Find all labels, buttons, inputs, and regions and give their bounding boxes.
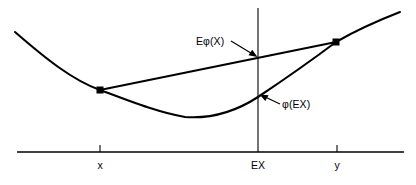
axis-tick-label-ex: EX [251, 160, 265, 171]
annotation-label-curve-value: φ(EX) [282, 99, 310, 110]
chord-endpoint-right-marker [333, 39, 340, 46]
curve-value-arrow [260, 95, 281, 105]
figure-canvas [0, 0, 416, 185]
chord-endpoint-left-marker [97, 87, 104, 94]
convex-curve [15, 12, 400, 117]
chord-line [100, 42, 336, 90]
jensen-inequality-figure: Eφ(X) φ(EX) x EX y [0, 0, 416, 185]
chord-value-arrow [231, 41, 258, 57]
axis-tick-label-x: x [97, 160, 102, 171]
annotation-label-chord-value: Eφ(X) [196, 36, 224, 47]
axis-tick-label-y: y [334, 160, 339, 171]
